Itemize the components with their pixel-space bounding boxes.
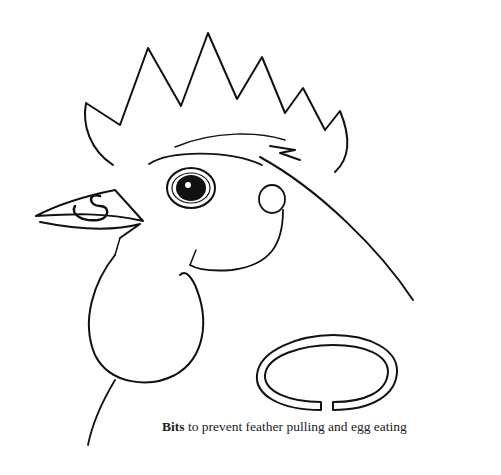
comb	[85, 33, 347, 172]
caption: Bits to prevent feather pulling and egg …	[162, 419, 407, 435]
earlobe	[259, 185, 285, 213]
eye	[167, 168, 215, 208]
neck-line	[260, 157, 413, 300]
wattle	[89, 255, 203, 382]
detached-bit-ring	[257, 335, 397, 410]
caption-text: to prevent feather pulling and egg eatin…	[185, 419, 407, 434]
beak	[36, 190, 143, 238]
rooster-illustration	[0, 0, 501, 475]
caption-bold: Bits	[162, 419, 185, 434]
